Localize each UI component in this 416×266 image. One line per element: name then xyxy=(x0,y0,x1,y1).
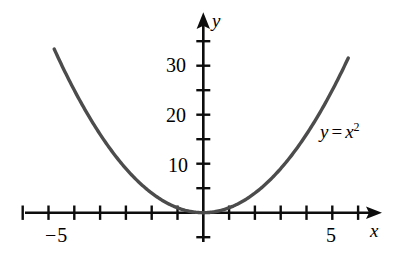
x-tick-label-negative-5: −5 xyxy=(45,225,68,245)
curve-equation-annotation: y=x2 xyxy=(320,122,360,141)
equation-operator: = xyxy=(328,121,345,142)
y-tick-label-20: 20 xyxy=(166,105,186,125)
y-tick-label-30: 30 xyxy=(166,55,186,75)
parabola-figure: 30 20 10 −5 5 y x y=x2 xyxy=(0,0,416,266)
equation-exponent: 2 xyxy=(354,120,360,134)
equation-base: x xyxy=(345,121,353,142)
y-axis-label: y xyxy=(212,11,220,30)
x-axis-label: x xyxy=(370,221,378,240)
y-tick-label-10: 10 xyxy=(168,155,188,175)
x-tick-label-5: 5 xyxy=(326,225,336,245)
